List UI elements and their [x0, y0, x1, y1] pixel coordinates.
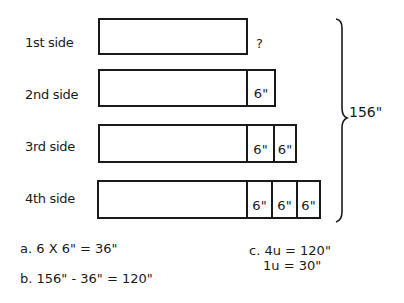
total-length-label: 156" — [349, 104, 382, 120]
step-b: b. 156" - 36" = 120" — [20, 271, 153, 286]
step-c-line2: 1u = 30" — [263, 258, 321, 273]
step-a: a. 6 X 6" = 36" — [20, 241, 118, 256]
step-c-line1: c. 4u = 120" — [249, 243, 331, 258]
curly-brace-icon — [0, 0, 404, 303]
